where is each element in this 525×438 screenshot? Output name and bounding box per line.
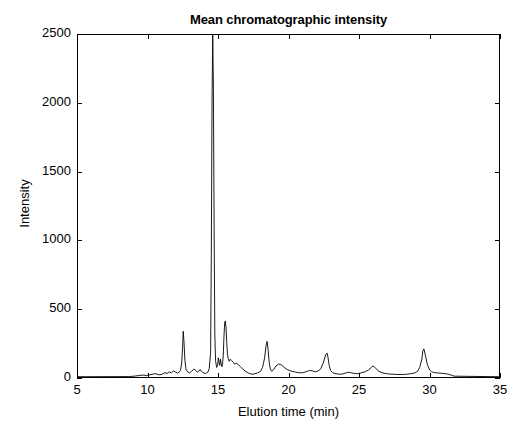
x-axis-tick-labels: 5101520253035 [0, 382, 525, 402]
x-tick-mark [500, 373, 501, 378]
y-tick-mark [77, 309, 82, 310]
y-tick-mark-right [495, 240, 500, 241]
y-tick-mark-right [495, 378, 500, 379]
plot-area [77, 34, 500, 378]
y-tick-mark-right [495, 103, 500, 104]
x-tick-mark [289, 373, 290, 378]
x-tick-mark-top [500, 34, 501, 39]
x-tick-label: 25 [352, 382, 366, 397]
x-tick-mark [359, 373, 360, 378]
x-tick-label: 35 [493, 382, 507, 397]
x-tick-label: 15 [211, 382, 225, 397]
chromatogram-figure: Mean chromatographic intensity Intensity… [0, 0, 525, 438]
y-tick-mark [77, 103, 82, 104]
x-tick-mark-top [430, 34, 431, 39]
x-tick-mark-top [77, 34, 78, 39]
y-tick-label: 500 [49, 300, 71, 315]
y-tick-mark-right [495, 172, 500, 173]
y-axis-tick-labels: 05001000150020002500 [0, 0, 71, 438]
y-tick-mark [77, 240, 82, 241]
y-tick-mark [77, 172, 82, 173]
y-tick-label: 2500 [42, 25, 71, 40]
x-tick-mark [430, 373, 431, 378]
chart-title: Mean chromatographic intensity [77, 12, 500, 27]
x-tick-mark [218, 373, 219, 378]
x-tick-label: 5 [73, 382, 80, 397]
x-tick-label: 10 [140, 382, 154, 397]
x-tick-mark-top [359, 34, 360, 39]
x-tick-label: 30 [422, 382, 436, 397]
x-tick-mark [148, 373, 149, 378]
x-tick-mark [77, 373, 78, 378]
y-tick-mark [77, 378, 82, 379]
y-tick-mark-right [495, 309, 500, 310]
x-tick-mark-top [148, 34, 149, 39]
chromatogram-trace [78, 35, 499, 377]
x-tick-mark-top [289, 34, 290, 39]
y-tick-label: 2000 [42, 94, 71, 109]
y-tick-label: 1500 [42, 163, 71, 178]
x-tick-mark-top [218, 34, 219, 39]
y-tick-label: 1000 [42, 231, 71, 246]
x-axis-label: Elution time (min) [77, 404, 500, 419]
x-tick-label: 20 [281, 382, 295, 397]
